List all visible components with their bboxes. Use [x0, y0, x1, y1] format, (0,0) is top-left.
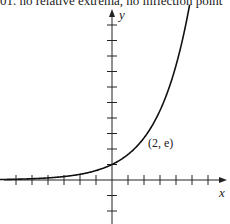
x-axis-arrow-icon [219, 177, 227, 183]
y-axis-arrow-icon [109, 9, 115, 17]
graph: y x (2, e) [0, 0, 230, 224]
y-axis-label: y [117, 7, 125, 22]
y-axis [107, 14, 117, 224]
x-axis-label: x [218, 185, 225, 200]
x-axis [4, 175, 222, 185]
exponential-curve [0, 5, 190, 180]
point-label: (2, e) [148, 136, 173, 150]
